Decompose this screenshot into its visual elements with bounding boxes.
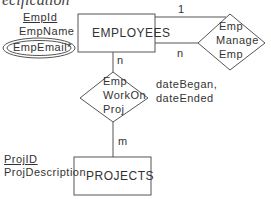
card-manage-n: n (177, 47, 184, 59)
rel-workon-line2: WorkOn (103, 89, 146, 101)
card-manage-one: 1 (178, 3, 185, 15)
card-workon-emp: n (117, 54, 124, 66)
rel-manage-line3: Emp (219, 48, 243, 60)
attr-empid: EmpId (23, 11, 57, 23)
entity-employees: EMPLOYEES (92, 26, 171, 40)
attr-projdescription: ProjDescription (4, 166, 86, 178)
attr-datebegan: dateBegan, (156, 78, 217, 90)
entity-projects: PROJECTS (86, 169, 154, 183)
rel-workon-line3: Proj (103, 103, 125, 115)
rel-manage-line2: Manage (216, 34, 259, 46)
attr-dateended: dateEnded (156, 92, 214, 104)
card-workon-proj: m (118, 135, 128, 147)
attr-projid: ProjID (4, 153, 38, 165)
attr-empemail: EmpEmail* (13, 41, 72, 53)
rel-manage-line1: Emp (219, 20, 243, 32)
attr-empname: EmpName (19, 25, 74, 37)
rel-workon-line1: Emp (103, 75, 127, 87)
